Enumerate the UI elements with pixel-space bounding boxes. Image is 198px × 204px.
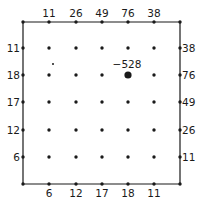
lattice-dot — [152, 46, 155, 49]
lattice-dot — [100, 155, 103, 158]
lattice-dot — [152, 155, 155, 158]
lattice-dot — [47, 100, 50, 103]
top-boundary-labels: 1126497638 — [42, 7, 160, 19]
top-label: 38 — [147, 7, 160, 19]
lattice-dots — [21, 20, 181, 185]
right-boundary-labels: 3876492611 — [182, 42, 196, 163]
lattice-dot — [152, 20, 155, 23]
lattice-dot — [100, 73, 103, 76]
lattice-dot — [47, 46, 50, 49]
lattice-dot — [74, 182, 77, 185]
highlighted-lattice-point: −528 — [113, 58, 142, 79]
stray-dot — [52, 63, 54, 65]
lattice-dot — [100, 100, 103, 103]
lattice-dot — [74, 73, 77, 76]
lattice-dot — [47, 128, 50, 131]
lattice-dot — [178, 20, 181, 23]
top-label: 11 — [42, 7, 55, 19]
left-label: 11 — [7, 42, 20, 54]
bottom-label: 11 — [147, 187, 160, 199]
lattice-dot — [100, 182, 103, 185]
lattice-dot — [47, 182, 50, 185]
lattice-diagram-canvas: 1126497638 612171811 111817126 387649261… — [0, 0, 198, 204]
highlighted-value-label: −528 — [113, 58, 142, 70]
bottom-label: 17 — [95, 187, 108, 199]
lattice-dot — [47, 155, 50, 158]
bottom-label: 18 — [121, 187, 134, 199]
lattice-dot — [152, 182, 155, 185]
lattice-dot — [126, 46, 129, 49]
lattice-dot — [21, 46, 24, 49]
lattice-diagram: 1126497638 612171811 111817126 387649261… — [0, 0, 198, 204]
lattice-dot — [126, 155, 129, 158]
right-label: 49 — [182, 96, 195, 108]
lattice-dot — [21, 128, 24, 131]
highlighted-dot — [124, 71, 131, 78]
lattice-dot — [21, 155, 24, 158]
left-boundary-labels: 111817126 — [7, 42, 21, 163]
lattice-dot — [74, 128, 77, 131]
lattice-dot — [21, 100, 24, 103]
bottom-boundary-labels: 612171811 — [46, 187, 161, 199]
lattice-dot — [21, 182, 24, 185]
top-label: 26 — [69, 7, 83, 19]
lattice-dot — [178, 182, 181, 185]
lattice-dot — [47, 20, 50, 23]
lattice-dot — [152, 128, 155, 131]
lattice-dot — [74, 46, 77, 49]
lattice-dot — [74, 20, 77, 23]
left-label: 12 — [7, 124, 20, 136]
right-label: 11 — [182, 151, 195, 163]
right-label: 76 — [182, 69, 196, 81]
lattice-dot — [21, 73, 24, 76]
top-label: 49 — [95, 7, 108, 19]
lattice-dot — [126, 20, 129, 23]
lattice-dot — [100, 20, 103, 23]
lattice-dot — [126, 128, 129, 131]
left-label: 6 — [13, 151, 20, 163]
lattice-dot — [152, 100, 155, 103]
bottom-label: 12 — [69, 187, 82, 199]
lattice-dot — [126, 182, 129, 185]
lattice-dot — [126, 100, 129, 103]
lattice-dot — [47, 73, 50, 76]
lattice-dot — [100, 128, 103, 131]
top-label: 76 — [121, 7, 135, 19]
right-label: 38 — [182, 42, 195, 54]
lattice-dot — [21, 20, 24, 23]
right-label: 26 — [182, 124, 196, 136]
lattice-dot — [100, 46, 103, 49]
left-label: 18 — [7, 69, 20, 81]
lattice-dot — [74, 100, 77, 103]
lattice-dot — [74, 155, 77, 158]
left-label: 17 — [7, 96, 20, 108]
bottom-label: 6 — [46, 187, 53, 199]
lattice-dot — [152, 73, 155, 76]
